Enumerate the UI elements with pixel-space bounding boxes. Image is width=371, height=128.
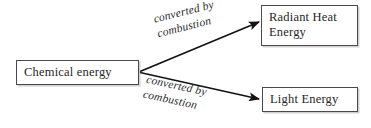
node-chemical-energy[interactable]: Chemical energy [16,60,139,85]
node-light-energy[interactable]: Light Energy [262,87,358,112]
node-light-energy-label: Light Energy [270,92,338,107]
energy-conversion-diagram: Chemical energy Radiant Heat Energy Ligh… [0,0,371,128]
node-radiant-heat-energy-label: Radiant Heat Energy [269,10,337,40]
node-radiant-heat-energy[interactable]: Radiant Heat Energy [261,5,358,46]
node-chemical-energy-label: Chemical energy [24,65,112,80]
